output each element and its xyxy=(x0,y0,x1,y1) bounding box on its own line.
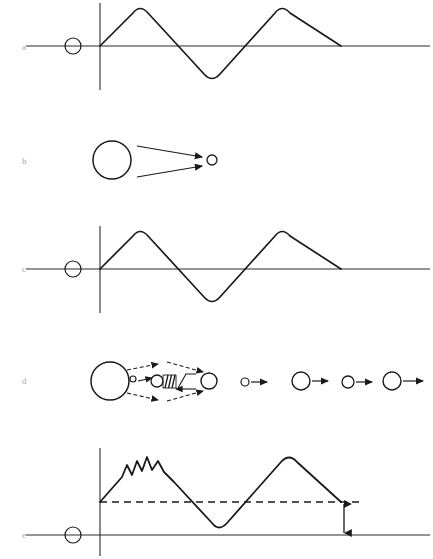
panel-a: a xyxy=(22,3,430,90)
figure-canvas: a b c d xyxy=(0,0,433,559)
panel-d-bracket xyxy=(178,374,196,388)
panel-d-dashed-arrow-2 xyxy=(127,393,158,400)
panel-d-mid-circle xyxy=(151,375,163,387)
panel-d-dashed-arrow-4 xyxy=(167,391,203,401)
panel-b-target-circle xyxy=(207,155,217,165)
panel-b: b xyxy=(22,141,217,179)
panel-a-wave xyxy=(100,9,341,79)
panel-e-wave xyxy=(100,457,341,528)
sequence-circle xyxy=(241,378,249,386)
panel-d-label: d xyxy=(22,376,27,386)
panel-d-sequence-item-3 xyxy=(342,376,372,388)
panel-b-arrow-lower xyxy=(137,166,202,177)
panel-e-label: e xyxy=(22,530,26,540)
panel-e: e xyxy=(22,448,430,556)
panel-c-wave xyxy=(100,232,341,302)
panel-d-sequence-item-4 xyxy=(383,372,423,390)
panel-d-sequence-item-1 xyxy=(241,378,267,386)
panel-d-hatch-block xyxy=(163,375,176,388)
panel-d: d xyxy=(22,362,423,401)
panel-c: c xyxy=(22,226,430,313)
panel-c-label: c xyxy=(22,264,26,274)
panel-b-label: b xyxy=(22,156,27,166)
sequence-circle xyxy=(383,372,401,390)
sequence-circle xyxy=(292,372,310,390)
panel-d-dashed-arrow-3 xyxy=(167,362,203,372)
panel-d-end-circle xyxy=(201,373,217,389)
panel-d-particle-circle xyxy=(130,376,136,382)
panel-d-source-circle xyxy=(91,362,129,400)
panel-d-sequence-item-2 xyxy=(292,372,328,390)
panel-b-arrow-upper xyxy=(137,146,202,157)
panel-a-label: a xyxy=(22,42,26,52)
panel-b-source-circle xyxy=(93,141,131,179)
panel-d-dashed-arrow-1 xyxy=(127,364,158,370)
panel-d-particle-arrow xyxy=(138,378,152,381)
sequence-circle xyxy=(342,376,354,388)
